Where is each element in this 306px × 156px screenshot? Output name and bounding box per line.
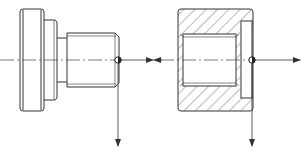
bolt-reference-point-icon: [115, 57, 121, 63]
nut-reference-point-icon: [249, 57, 255, 63]
technical-drawing: [0, 0, 306, 156]
